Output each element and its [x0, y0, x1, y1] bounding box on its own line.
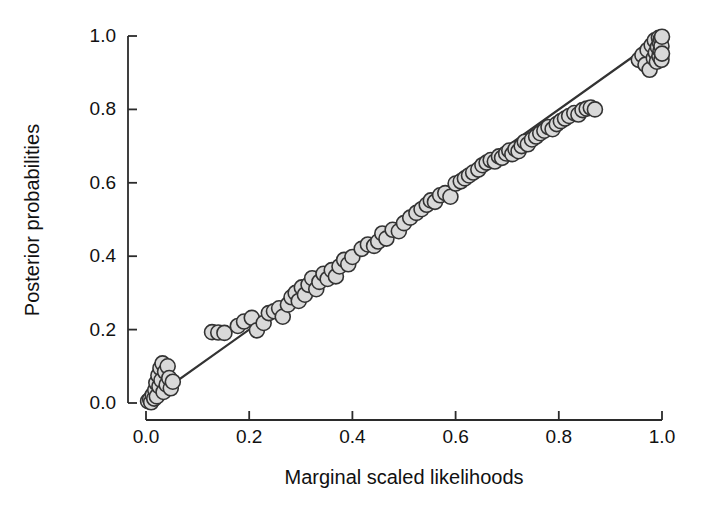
x-tick-label: 1.0 — [649, 426, 675, 448]
scatter-plot-figure: 0.00.20.40.60.81.0 0.00.20.40.60.81.0 Ma… — [0, 0, 707, 521]
y-axis-title: Posterior probabilities — [21, 123, 44, 315]
y-tick-label: 0.0 — [0, 392, 116, 414]
y-tick-label: 0.6 — [0, 172, 116, 194]
data-point — [655, 29, 670, 44]
x-tick-label: 0.6 — [442, 426, 468, 448]
y-tick-label: 0.4 — [0, 245, 116, 267]
y-tick-label: 1.0 — [0, 25, 116, 47]
x-axis-title: Marginal scaled likelihoods — [284, 466, 523, 489]
data-point — [217, 325, 232, 340]
y-tick-label: 0.2 — [0, 319, 116, 341]
data-point — [587, 102, 602, 117]
y-tick-label: 0.8 — [0, 98, 116, 120]
x-tick-label: 0.4 — [339, 426, 365, 448]
x-tick-label: 0.0 — [133, 426, 159, 448]
x-tick-label: 0.8 — [546, 426, 572, 448]
data-point — [655, 46, 670, 61]
data-point — [165, 374, 180, 389]
x-tick-label: 0.2 — [236, 426, 262, 448]
